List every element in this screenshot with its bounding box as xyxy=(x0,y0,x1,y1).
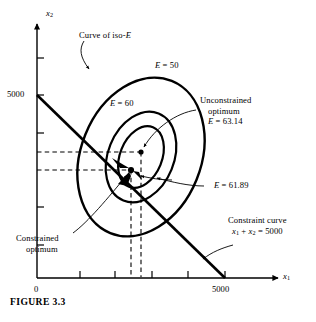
point-unconstrained-optimum xyxy=(138,149,143,154)
contour-e-50 xyxy=(55,58,228,255)
leader-unconstrained xyxy=(144,110,196,147)
x-tick-label-0: 0 xyxy=(34,284,38,294)
label-contour-e-60: E = 60 xyxy=(110,98,134,109)
axis-label-y: x2 xyxy=(46,8,53,21)
figure-caption: FIGURE 3.3 xyxy=(10,296,66,307)
iso-e-contours xyxy=(55,58,228,255)
figure-3-3: x2 x1 5000 0 5000 Curve of iso-E E = 50 … xyxy=(0,0,316,322)
label-contour-e-6189: E = 61.89 xyxy=(214,180,249,191)
axis-label-x: x1 xyxy=(283,271,290,284)
plot-canvas xyxy=(0,0,316,322)
label-iso-curve: Curve of iso-E xyxy=(79,30,131,41)
label-constrained-optimum: Constrained optimum xyxy=(16,233,59,254)
label-unconstrained-optimum: Unconstrained optimum E = 63.14 xyxy=(200,95,251,127)
x-tick-label-5000: 5000 xyxy=(212,284,229,294)
label-contour-e-50: E = 50 xyxy=(155,60,179,71)
point-constrained-optimum xyxy=(128,167,134,173)
label-constraint-curve: Constraint curve x1 + x2 = 5000 xyxy=(228,215,287,238)
x-axis-ticks xyxy=(80,271,225,278)
leader-iso-curve xyxy=(81,41,89,69)
y-tick-label-5000: 5000 xyxy=(7,89,24,99)
leader-constraint-curve xyxy=(203,245,233,259)
